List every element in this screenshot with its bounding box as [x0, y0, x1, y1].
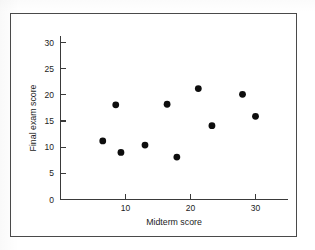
data-point [99, 137, 106, 144]
y-tick-group: 051015202530 [45, 38, 66, 205]
data-point [142, 142, 149, 149]
scatter-plot: 051015202530 Final exam score 102030 Mid… [0, 0, 315, 250]
x-tick-group: 102030 [121, 194, 261, 213]
data-point [252, 113, 259, 120]
data-point [209, 122, 216, 129]
y-tick-label: 10 [45, 142, 55, 152]
data-points-group [99, 85, 259, 160]
data-point [239, 91, 246, 98]
y-axis-title: Final exam score [28, 84, 38, 151]
y-axis-group: 051015202530 Final exam score [28, 36, 66, 205]
x-axis-title: Midterm score [146, 217, 202, 227]
data-point [112, 101, 119, 108]
x-axis-group: 102030 Midterm score [60, 194, 288, 227]
data-point [164, 101, 171, 108]
y-tick-label: 30 [45, 38, 55, 48]
x-tick-label: 30 [251, 203, 261, 213]
x-tick-label: 20 [186, 203, 196, 213]
y-tick-label: 0 [49, 195, 54, 205]
data-point [195, 85, 202, 92]
x-tick-label: 10 [121, 203, 131, 213]
data-point [118, 149, 125, 156]
data-point [173, 154, 180, 161]
y-tick-label: 15 [45, 116, 55, 126]
y-tick-label: 20 [45, 90, 55, 100]
y-tick-label: 25 [45, 64, 55, 74]
y-tick-label: 5 [49, 168, 54, 178]
